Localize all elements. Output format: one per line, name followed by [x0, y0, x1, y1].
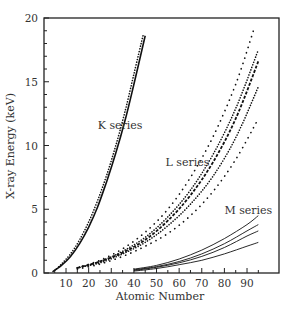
series-line-l-5 — [77, 87, 258, 268]
series-label-m: M series — [224, 204, 272, 217]
plot-frame — [44, 18, 279, 273]
x-tick-label: 60 — [172, 277, 185, 289]
y-tick-label: 5 — [31, 203, 38, 215]
series-labels: K seriesL seriesM series — [98, 119, 273, 217]
series-line-l-2 — [77, 30, 253, 268]
series-line-k-0 — [52, 36, 145, 272]
y-tick-label: 10 — [25, 140, 38, 152]
x-tick-label: 10 — [59, 277, 72, 289]
x-tick-label: 50 — [150, 277, 163, 289]
x-tick-label: 30 — [105, 277, 118, 289]
series-label-k: K series — [98, 119, 143, 132]
y-tick-label: 0 — [31, 267, 38, 279]
xray-energy-chart: 05101520 102030405060708090 K seriesL se… — [0, 0, 295, 316]
x-tick-label: 70 — [195, 277, 208, 289]
y-tick-label: 20 — [25, 12, 38, 24]
x-axis-ticks: 102030405060708090 — [55, 268, 259, 289]
y-tick-label: 15 — [25, 76, 38, 88]
y-axis-title: X-ray Energy (keV) — [4, 93, 17, 199]
x-tick-label: 20 — [82, 277, 95, 289]
x-axis-title: Atomic Number — [115, 290, 205, 303]
series-line-l-6 — [77, 119, 258, 269]
series-line-m-9 — [134, 231, 258, 271]
series-label-l: L series — [166, 156, 210, 169]
x-tick-label: 90 — [240, 277, 253, 289]
series-layer — [52, 30, 258, 272]
x-tick-label: 80 — [218, 277, 231, 289]
x-tick-label: 40 — [127, 277, 140, 289]
series-line-k-1 — [55, 36, 143, 271]
series-line-m-10 — [134, 242, 258, 271]
y-axis-ticks: 05101520 — [25, 12, 49, 279]
